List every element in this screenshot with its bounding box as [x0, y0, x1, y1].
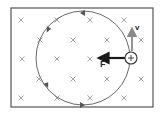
magnetic-field-diagram: v F: [0, 0, 160, 113]
diagram-canvas: [0, 0, 160, 113]
force-label: F: [100, 60, 106, 69]
velocity-label: v: [135, 24, 139, 32]
